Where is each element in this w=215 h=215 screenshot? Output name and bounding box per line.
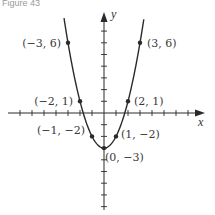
point-label: (2, 1) (134, 95, 164, 108)
x-axis-label: x (197, 115, 204, 129)
point-label: (−3, 6) (22, 37, 61, 50)
y-axis-arrow-icon (101, 12, 108, 22)
point-label: (0, −3) (105, 151, 144, 164)
point-label: (−2, 1) (34, 95, 73, 108)
point-marker (102, 146, 106, 150)
point-marker (66, 41, 70, 45)
point-label: (1, −2) (121, 128, 160, 141)
parabola-figure: Figure 43 (−3, 6)(3, 6)(−2, 1)(2, 1)(−1,… (0, 0, 215, 215)
figure-caption: Figure 43 (2, 0, 40, 8)
point-marker (114, 134, 118, 138)
plot-canvas: Figure 43 (−3, 6)(3, 6)(−2, 1)(2, 1)(−1,… (0, 0, 215, 215)
point-label: (3, 6) (147, 37, 177, 50)
point-marker (126, 99, 130, 103)
point-marker (78, 99, 82, 103)
labeled-points: (−3, 6)(3, 6)(−2, 1)(2, 1)(−1, −2)(1, −2… (22, 37, 176, 164)
point-label: (−1, −2) (37, 124, 85, 137)
point-marker (138, 41, 142, 45)
point-marker (90, 134, 94, 138)
y-axis-label: y (110, 7, 117, 21)
